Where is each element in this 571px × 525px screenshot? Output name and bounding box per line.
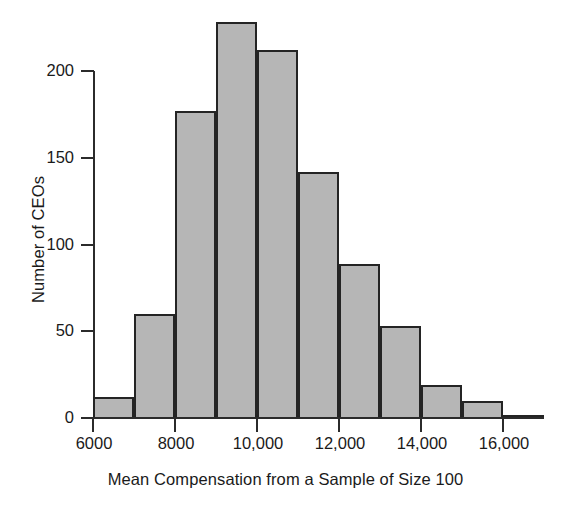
x-tick-16,000 <box>502 419 504 432</box>
histogram-bar <box>257 50 298 419</box>
histogram-bar <box>134 314 175 419</box>
x-tick-6000 <box>92 419 94 432</box>
x-tick-label: 12,000 <box>295 434 385 453</box>
histogram-bar <box>339 264 380 419</box>
x-tick-12,000 <box>338 419 340 432</box>
histogram-bar <box>93 397 134 419</box>
x-tick-label: 8000 <box>131 434 221 453</box>
x-tick-label: 10,000 <box>213 434 303 453</box>
histogram-bar <box>175 111 216 419</box>
histogram-bar <box>216 22 257 419</box>
histogram-bar <box>380 326 421 419</box>
x-axis-label: Mean Compensation from a Sample of Size … <box>0 470 571 489</box>
histogram-figure: Number of CEOs 050100150200 6000800010,0… <box>0 0 571 525</box>
x-tick-label: 14,000 <box>377 434 467 453</box>
x-tick-8000 <box>174 419 176 432</box>
x-tick-label: 6000 <box>49 434 139 453</box>
x-tick-label: 16,000 <box>459 434 549 453</box>
histogram-bar <box>298 172 339 419</box>
histogram-bar <box>421 385 462 419</box>
x-tick-14,000 <box>420 419 422 432</box>
x-axis-line <box>93 417 544 419</box>
x-tick-10,000 <box>256 419 258 432</box>
